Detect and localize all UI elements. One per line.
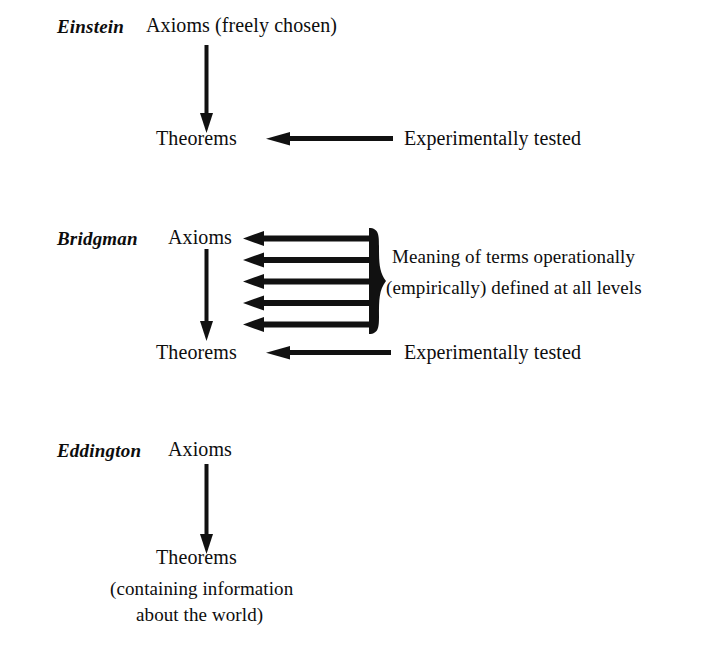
thinker-label-einstein: Einstein xyxy=(57,16,124,38)
thinker-label-bridgman: Bridgman xyxy=(57,228,138,250)
bridgman-operational-arrow-1 xyxy=(243,231,372,246)
einstein-vertical-arrow xyxy=(200,45,213,133)
bridgman-experimentally-tested-label: Experimentally tested xyxy=(404,341,581,364)
bridgman-brace-icon xyxy=(369,228,386,334)
eddington-caption-line-2: about the world) xyxy=(136,604,263,626)
bridgman-operational-arrow-2 xyxy=(243,253,372,268)
diagram-canvas: Einstein Axioms (freely chosen) Theorems… xyxy=(0,0,719,649)
einstein-theorems-label: Theorems xyxy=(156,127,237,150)
bridgman-vertical-arrow xyxy=(200,249,213,341)
bridgman-theorems-label: Theorems xyxy=(156,341,237,364)
arrow-layer xyxy=(0,0,719,649)
einstein-experimentally-tested-label: Experimentally tested xyxy=(404,127,581,150)
thinker-label-eddington: Eddington xyxy=(57,440,141,462)
bridgman-brace-note-line-2: (empirically) defined at all levels xyxy=(386,277,642,299)
einstein-axioms-label: Axioms (freely chosen) xyxy=(146,14,337,37)
bridgman-operational-arrow-3 xyxy=(243,274,372,289)
bridgman-axioms-label: Axioms xyxy=(168,226,232,249)
bridgman-brace-note-line-1: Meaning of terms operationally xyxy=(392,246,635,268)
einstein-horizontal-arrow xyxy=(266,132,393,146)
bridgman-operational-arrow-4 xyxy=(243,296,372,311)
eddington-vertical-arrow xyxy=(200,464,213,554)
bridgman-horizontal-arrow xyxy=(266,346,391,360)
bridgman-operational-arrow-5 xyxy=(243,317,372,332)
eddington-caption-line-1: (containing information xyxy=(110,578,293,600)
eddington-theorems-label: Theorems xyxy=(156,546,237,569)
eddington-axioms-label: Axioms xyxy=(168,438,232,461)
